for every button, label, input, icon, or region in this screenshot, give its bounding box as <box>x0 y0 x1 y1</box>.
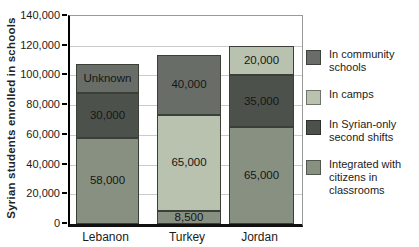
y-axis-tick-label: 60,000 <box>14 127 60 141</box>
bar-turkey: 40,00065,0008,500 <box>157 55 221 224</box>
y-axis-tick-label: 120,000 <box>14 38 60 52</box>
segment-value-label: 35,000 <box>244 96 279 108</box>
segment-value-label: 65,000 <box>244 170 279 182</box>
y-axis-tick <box>62 44 67 46</box>
x-axis-category-label: Jordan <box>220 230 300 244</box>
bar-segment-syrian_only: 35,000 <box>229 75 294 127</box>
legend-item-integrated: Integrated with citizens in classrooms <box>306 158 418 198</box>
legend-item-syrian_only: In Syrian-only second shifts <box>306 118 418 145</box>
bar-segment-camps: 65,000 <box>157 115 221 212</box>
bar-segment-integrated: 58,000 <box>76 138 139 224</box>
legend-label: In community schools <box>329 48 413 75</box>
segment-value-label: 58,000 <box>90 175 125 187</box>
bar-segment-integrated: 8,500 <box>157 211 221 224</box>
y-axis-tick <box>62 163 67 165</box>
chart-figure: Syrian students enrolled in schools Unkn… <box>0 0 419 247</box>
bar-segment-community: 40,000 <box>157 55 221 114</box>
legend: In community schoolsIn campsIn Syrian-on… <box>306 48 418 211</box>
segment-value-label: 30,000 <box>90 110 125 122</box>
legend-swatch-camps <box>306 90 321 105</box>
bar-segment-community: Unknown <box>76 64 139 94</box>
y-axis-tick <box>62 73 67 75</box>
segment-value-label: 20,000 <box>244 55 279 67</box>
legend-label: In Syrian-only second shifts <box>329 118 413 145</box>
bar-segment-integrated: 65,000 <box>229 127 294 224</box>
bar-segment-syrian_only: 30,000 <box>76 93 139 138</box>
legend-swatch-community <box>306 50 321 65</box>
legend-swatch-syrian_only <box>306 120 321 135</box>
legend-item-camps: In camps <box>306 88 418 105</box>
bar-segment-camps: 20,000 <box>229 46 294 76</box>
x-axis-category-label: Lebanon <box>66 230 146 244</box>
y-axis-tick <box>62 133 67 135</box>
y-axis-tick-label: 20,000 <box>14 186 60 200</box>
y-axis-tick-label: 0 <box>14 216 60 230</box>
legend-swatch-integrated <box>306 160 321 175</box>
legend-item-community: In community schools <box>306 48 418 75</box>
y-axis-tick <box>62 14 67 16</box>
x-axis-category-label: Turkey <box>147 230 227 244</box>
segment-value-label: Unknown <box>84 73 132 85</box>
bar-jordan: 20,00035,00065,000 <box>229 46 294 224</box>
y-axis-tick-label: 100,000 <box>14 67 60 81</box>
segment-value-label: 65,000 <box>171 157 206 169</box>
legend-label: In camps <box>329 88 413 101</box>
segment-value-label: 40,000 <box>171 79 206 91</box>
y-axis-tick <box>62 192 67 194</box>
y-axis-tick <box>62 222 67 224</box>
y-axis-tick-label: 80,000 <box>14 97 60 111</box>
legend-label: Integrated with citizens in classrooms <box>329 158 413 198</box>
segment-value-label: 8,500 <box>175 212 204 224</box>
bar-lebanon: Unknown30,00058,000 <box>76 64 139 224</box>
y-axis-tick-label: 140,000 <box>14 8 60 22</box>
y-axis-tick-label: 40,000 <box>14 157 60 171</box>
plot-area: Unknown30,00058,00040,00065,0008,50020,0… <box>68 15 303 227</box>
y-axis-tick <box>62 103 67 105</box>
